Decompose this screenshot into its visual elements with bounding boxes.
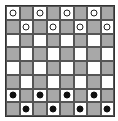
board-square-r5-c6[interactable] — [74, 61, 88, 75]
checkers-board — [5, 5, 115, 117]
black-piece[interactable] — [104, 106, 111, 113]
board-square-r2-c2[interactable] — [20, 20, 34, 34]
white-piece[interactable] — [9, 9, 16, 16]
board-square-r6-c1[interactable] — [6, 75, 20, 89]
white-piece[interactable] — [104, 23, 111, 30]
board-square-r4-c7[interactable] — [87, 47, 101, 61]
board-square-r7-c2[interactable] — [20, 89, 34, 103]
board-square-r8-c8[interactable] — [101, 102, 115, 116]
board-square-r5-c4[interactable] — [47, 61, 61, 75]
black-piece[interactable] — [23, 106, 30, 113]
board-square-r1-c4[interactable] — [47, 6, 61, 20]
board-square-r1-c1[interactable] — [6, 6, 20, 20]
board-square-r2-c7[interactable] — [87, 20, 101, 34]
board-square-r7-c4[interactable] — [47, 89, 61, 103]
board-square-r4-c6[interactable] — [74, 47, 88, 61]
board-square-r4-c3[interactable] — [33, 47, 47, 61]
board-square-r1-c6[interactable] — [74, 6, 88, 20]
board-square-r5-c7[interactable] — [87, 61, 101, 75]
board-square-r6-c3[interactable] — [33, 75, 47, 89]
board-square-r5-c3[interactable] — [33, 61, 47, 75]
board-square-r3-c5[interactable] — [60, 34, 74, 48]
board-square-r5-c5[interactable] — [60, 61, 74, 75]
board-square-r6-c6[interactable] — [74, 75, 88, 89]
white-piece[interactable] — [36, 9, 43, 16]
board-square-r4-c4[interactable] — [47, 47, 61, 61]
board-square-r5-c2[interactable] — [20, 61, 34, 75]
board-square-r1-c7[interactable] — [87, 6, 101, 20]
board-square-r7-c8[interactable] — [101, 89, 115, 103]
white-piece[interactable] — [77, 23, 84, 30]
black-piece[interactable] — [50, 106, 57, 113]
board-square-r1-c5[interactable] — [60, 6, 74, 20]
board-square-r3-c7[interactable] — [87, 34, 101, 48]
board-square-r8-c6[interactable] — [74, 102, 88, 116]
board-square-r6-c4[interactable] — [47, 75, 61, 89]
board-square-r7-c1[interactable] — [6, 89, 20, 103]
board-square-r7-c7[interactable] — [87, 89, 101, 103]
board-square-r6-c2[interactable] — [20, 75, 34, 89]
board-square-r8-c1[interactable] — [6, 102, 20, 116]
board-square-r3-c2[interactable] — [20, 34, 34, 48]
board-square-r3-c1[interactable] — [6, 34, 20, 48]
board-square-r2-c1[interactable] — [6, 20, 20, 34]
white-piece[interactable] — [63, 9, 70, 16]
board-square-r1-c3[interactable] — [33, 6, 47, 20]
black-piece[interactable] — [9, 92, 16, 99]
board-square-r8-c3[interactable] — [33, 102, 47, 116]
board-square-r2-c3[interactable] — [33, 20, 47, 34]
board-square-r8-c7[interactable] — [87, 102, 101, 116]
board-square-r7-c6[interactable] — [74, 89, 88, 103]
board-square-r8-c2[interactable] — [20, 102, 34, 116]
board-square-r4-c2[interactable] — [20, 47, 34, 61]
black-piece[interactable] — [77, 106, 84, 113]
board-square-r2-c5[interactable] — [60, 20, 74, 34]
black-piece[interactable] — [63, 92, 70, 99]
board-square-r1-c8[interactable] — [101, 6, 115, 20]
board-square-r3-c3[interactable] — [33, 34, 47, 48]
board-square-r6-c5[interactable] — [60, 75, 74, 89]
board-square-r3-c4[interactable] — [47, 34, 61, 48]
black-piece[interactable] — [36, 92, 43, 99]
white-piece[interactable] — [50, 23, 57, 30]
board-square-r1-c2[interactable] — [20, 6, 34, 20]
board-square-r3-c6[interactable] — [74, 34, 88, 48]
board-square-r6-c8[interactable] — [101, 75, 115, 89]
board-square-r4-c1[interactable] — [6, 47, 20, 61]
board-square-r8-c4[interactable] — [47, 102, 61, 116]
white-piece[interactable] — [23, 23, 30, 30]
white-piece[interactable] — [90, 9, 97, 16]
board-square-r2-c8[interactable] — [101, 20, 115, 34]
black-piece[interactable] — [90, 92, 97, 99]
board-square-r2-c6[interactable] — [74, 20, 88, 34]
board-square-r5-c1[interactable] — [6, 61, 20, 75]
board-square-r6-c7[interactable] — [87, 75, 101, 89]
board-square-r4-c8[interactable] — [101, 47, 115, 61]
board-square-r8-c5[interactable] — [60, 102, 74, 116]
board-square-r3-c8[interactable] — [101, 34, 115, 48]
board-square-r4-c5[interactable] — [60, 47, 74, 61]
board-square-r2-c4[interactable] — [47, 20, 61, 34]
board-square-r5-c8[interactable] — [101, 61, 115, 75]
board-square-r7-c5[interactable] — [60, 89, 74, 103]
board-square-r7-c3[interactable] — [33, 89, 47, 103]
